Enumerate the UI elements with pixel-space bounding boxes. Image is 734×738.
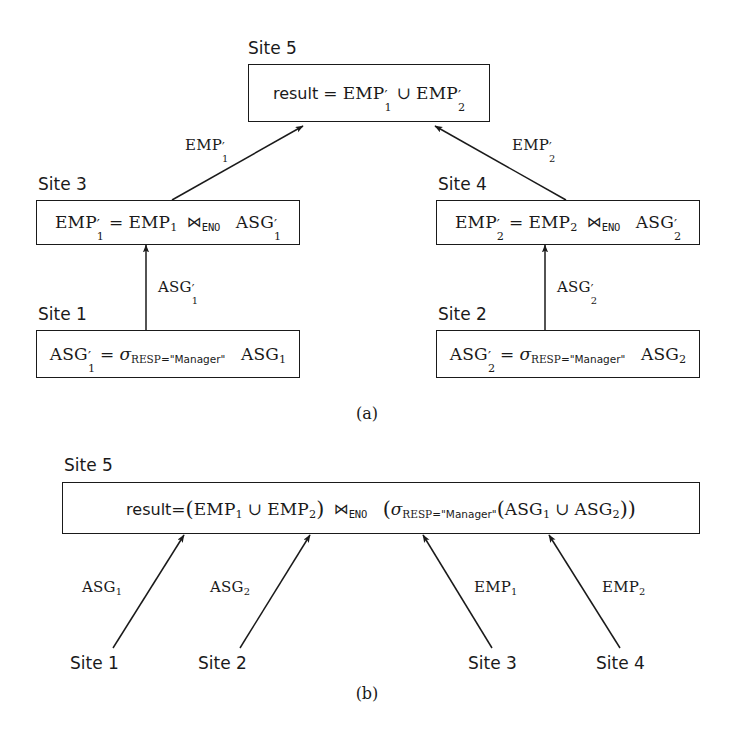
- edge-label-emp2-prime: EMP′2: [512, 136, 555, 154]
- expression-a-site5: result=EMP′1∪EMP′2: [273, 85, 465, 102]
- expression-b-site5: result=(EMP1∪EMP2) ⋈ENO (σRESP="Manager"…: [126, 498, 636, 519]
- edge-label-b-emp2: EMP2: [602, 578, 645, 596]
- site-label-b-site5: Site 5: [64, 455, 113, 475]
- node-box-a-site2: ASG′2=σRESP="Manager" ASG2: [436, 330, 700, 378]
- edge-label-emp1-prime: EMP′1: [185, 136, 228, 154]
- edge-label-asg1-prime: ASG′1: [158, 278, 198, 296]
- site-label-b-src-1: Site 1: [70, 653, 119, 673]
- site-label-b-src-2: Site 2: [198, 653, 247, 673]
- node-box-a-site3: EMP′1=EMP1 ⋈ENO ASG′1: [36, 200, 300, 245]
- node-box-a-site5: result=EMP′1∪EMP′2: [248, 64, 490, 122]
- caption-part-b: (b): [337, 684, 397, 703]
- site-label-b-src-3: Site 3: [468, 653, 517, 673]
- site-label-a-site2: Site 2: [438, 304, 487, 324]
- expression-a-site1: ASG′1=σRESP="Manager" ASG1: [50, 346, 286, 363]
- edge-label-b-emp1: EMP1: [474, 578, 517, 596]
- figure-canvas: Site 5 result=EMP′1∪EMP′2 EMP′1 EMP′2 Si…: [0, 0, 734, 738]
- site-label-a-site5: Site 5: [248, 38, 297, 58]
- expression-a-site2: ASG′2=σRESP="Manager" ASG2: [450, 346, 686, 363]
- node-box-b-site5: result=(EMP1∪EMP2) ⋈ENO (σRESP="Manager"…: [62, 482, 700, 534]
- site-label-a-site3: Site 3: [38, 174, 87, 194]
- edge-label-asg2-prime: ASG′2: [557, 278, 597, 296]
- site-label-a-site4: Site 4: [438, 174, 487, 194]
- caption-part-a: (a): [337, 404, 397, 423]
- node-box-a-site4: EMP′2=EMP2 ⋈ENO ASG′2: [436, 200, 700, 245]
- site-label-b-src-4: Site 4: [596, 653, 645, 673]
- arrow-b-site2: [240, 535, 310, 648]
- site-label-a-site1: Site 1: [38, 304, 87, 324]
- edge-label-b-asg2: ASG2: [210, 578, 250, 596]
- arrow-b-site1: [113, 535, 184, 648]
- node-box-a-site1: ASG′1=σRESP="Manager" ASG1: [36, 330, 300, 378]
- expression-a-site4: EMP′2=EMP2 ⋈ENO ASG′2: [455, 214, 681, 231]
- expression-a-site3: EMP′1=EMP1 ⋈ENO ASG′1: [55, 214, 281, 231]
- edge-label-b-asg1: ASG1: [82, 578, 122, 596]
